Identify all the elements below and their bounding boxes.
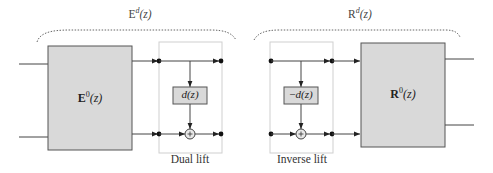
neg-d-filter-arg: (z) — [301, 88, 313, 100]
e0-arg: (z) — [90, 91, 103, 105]
synthesis-title: Rd(z) — [330, 6, 390, 20]
dual-lift-node-out-top — [219, 59, 224, 64]
r0-block-label: R0(z) — [361, 86, 445, 102]
analysis-title-arg: (z) — [139, 8, 151, 20]
d-filter-label: d(z) — [173, 88, 207, 100]
synthesis-brace — [254, 30, 460, 40]
analysis-brace — [37, 30, 236, 42]
neg-d-filter-label: −d(z) — [284, 88, 318, 100]
synthesis-title-base: R — [348, 8, 356, 20]
dual-lift-caption: Dual lift — [158, 153, 222, 165]
synthesis-title-arg: (z) — [360, 8, 372, 20]
e0-block-label: E0(z) — [48, 90, 132, 106]
inverse-lift-caption: Inverse lift — [264, 153, 340, 165]
e0-base: E — [78, 91, 86, 105]
r0-arg: (z) — [403, 87, 416, 101]
dual-lift-node-out-bottom — [219, 132, 224, 137]
analysis-title: Ed(z) — [110, 6, 170, 20]
d-filter-arg: (z) — [187, 88, 199, 100]
r0-base: R — [390, 87, 399, 101]
